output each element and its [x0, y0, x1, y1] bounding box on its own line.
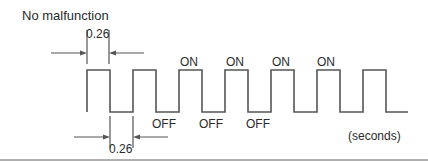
arrowhead-icon: [80, 51, 87, 56]
arrowhead-icon: [103, 135, 110, 140]
timing-diagram: No malfunction 0.26 ON ON ON ON OFF OFF …: [0, 0, 428, 162]
on-label: ON: [180, 55, 198, 69]
off-label: OFF: [199, 117, 223, 131]
off-label: OFF: [152, 117, 176, 131]
unit-label: (seconds): [348, 129, 401, 143]
square-waveform: [87, 70, 408, 112]
dim-bottom-value: 0.26: [109, 142, 133, 156]
on-label: ON: [272, 55, 290, 69]
off-label: OFF: [246, 117, 270, 131]
arrowhead-icon: [109, 51, 116, 56]
on-label: ON: [226, 55, 244, 69]
on-label: ON: [317, 55, 335, 69]
arrowhead-icon: [133, 135, 140, 140]
diagram-title: No malfunction: [22, 8, 109, 23]
dim-top-value: 0.26: [86, 27, 110, 41]
